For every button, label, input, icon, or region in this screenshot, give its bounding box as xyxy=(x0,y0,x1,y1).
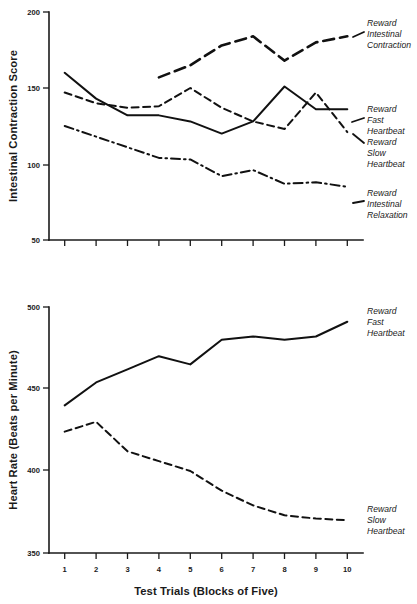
intestinal-contraction-plot: 200 150 100 50 Intestinal Contraction Sc… xyxy=(0,0,417,300)
annotation-slow-heartbeat-line3: Heartbeat xyxy=(367,159,405,169)
annotation-fast-heartbeat-line2: Fast xyxy=(367,115,384,125)
annotation-slow-heartbeat-line1: Reward xyxy=(367,137,397,147)
heart-rate-plot: 500 450 400 350 Heart Rate (Beats per Mi… xyxy=(0,290,417,604)
series-group-top xyxy=(65,36,348,186)
y-tick-label: 50 xyxy=(32,236,40,245)
annotation-slow-heartbeat-line1: Reward xyxy=(367,504,397,514)
annotation-intestinal-contraction-line1: Reward xyxy=(367,18,397,28)
intestinal-contraction-panel: 200 150 100 50 Intestinal Contraction Sc… xyxy=(0,0,417,300)
y-axis-title-bottom: Heart Rate (Beats per Minute) xyxy=(7,350,19,510)
annotations-bottom: Reward Fast Heartbeat Reward Slow Heartb… xyxy=(367,306,405,536)
x-tick-label: 1 xyxy=(63,565,68,574)
x-tick-label: 9 xyxy=(314,565,318,574)
annotation-slow-heartbeat-line3: Heartbeat xyxy=(367,526,405,536)
series-reward-intestinal-contraction xyxy=(159,36,347,77)
annotation-slow-heartbeat-line2: Slow xyxy=(367,148,386,158)
annotation-fast-heartbeat-line1: Reward xyxy=(367,104,397,114)
leader-line-fast-heartbeat xyxy=(352,118,364,122)
leader-line-intestinal-relaxation xyxy=(353,201,364,203)
annotation-intestinal-relaxation-line3: Relaxation xyxy=(367,210,408,220)
y-axis-group-top: 200 150 100 50 Intestinal Contraction Sc… xyxy=(7,8,49,245)
y-tick-label: 100 xyxy=(27,161,40,170)
x-tick-label: 3 xyxy=(125,565,129,574)
annotations-top: Reward Intestinal Contraction Reward Fas… xyxy=(352,18,411,220)
y-axis-group-bottom: 500 450 400 350 Heart Rate (Beats per Mi… xyxy=(7,303,49,558)
annotation-slow-heartbeat-line2: Slow xyxy=(367,515,386,525)
y-tick-label: 450 xyxy=(27,384,40,393)
y-ticks-bottom xyxy=(43,307,49,553)
x-tick-label: 8 xyxy=(282,565,286,574)
annotation-fast-heartbeat-line1: Reward xyxy=(367,306,397,316)
y-axis-title-top: Intestinal Contraction Score xyxy=(7,50,19,202)
series-reward-intestinal-relaxation xyxy=(65,126,348,187)
series-reward-slow-heartbeat xyxy=(65,88,348,132)
series-reward-slow-heartbeat xyxy=(65,422,348,520)
heart-rate-panel: 500 450 400 350 Heart Rate (Beats per Mi… xyxy=(0,290,417,604)
x-tick-label: 4 xyxy=(157,565,162,574)
two-panel-line-chart-figure: 200 150 100 50 Intestinal Contraction Sc… xyxy=(0,0,417,604)
series-reward-fast-heartbeat xyxy=(65,73,348,134)
x-tick-label: 10 xyxy=(343,565,351,574)
x-tick-labels-bottom: 12345678910 xyxy=(63,565,352,574)
y-tick-label: 500 xyxy=(27,303,40,312)
annotation-fast-heartbeat-line2: Fast xyxy=(367,317,384,327)
series-reward-fast-heartbeat xyxy=(65,322,348,406)
x-tick-label: 2 xyxy=(94,565,98,574)
x-axis-title-bottom: Test Trials (Blocks of Five) xyxy=(134,585,278,597)
y-tick-label: 400 xyxy=(27,466,40,475)
annotation-intestinal-contraction-line3: Contraction xyxy=(367,40,411,50)
x-axis-group-bottom: 12345678910 Test Trials (Blocks of Five) xyxy=(49,553,363,597)
annotation-intestinal-contraction-line2: Intestinal xyxy=(367,29,402,39)
annotation-intestinal-relaxation-line2: Intestinal xyxy=(367,199,402,209)
x-tick-label: 5 xyxy=(188,565,193,574)
leader-line-slow-heartbeat xyxy=(353,134,364,143)
x-ticks-bottom xyxy=(65,553,348,559)
y-ticks-top xyxy=(43,12,49,240)
y-tick-label: 350 xyxy=(27,549,40,558)
x-tick-label: 6 xyxy=(220,565,224,574)
x-ticks-top xyxy=(65,240,348,246)
annotation-fast-heartbeat-line3: Heartbeat xyxy=(367,126,405,136)
annotation-fast-heartbeat-line3: Heartbeat xyxy=(367,328,405,338)
x-axis-group-top xyxy=(49,240,363,246)
leader-line-intestinal-contraction xyxy=(353,32,364,37)
series-group-bottom xyxy=(65,322,348,520)
annotation-intestinal-relaxation-line1: Reward xyxy=(367,188,397,198)
y-tick-label: 150 xyxy=(27,84,40,93)
y-tick-label: 200 xyxy=(27,8,40,17)
x-tick-label: 7 xyxy=(251,565,255,574)
